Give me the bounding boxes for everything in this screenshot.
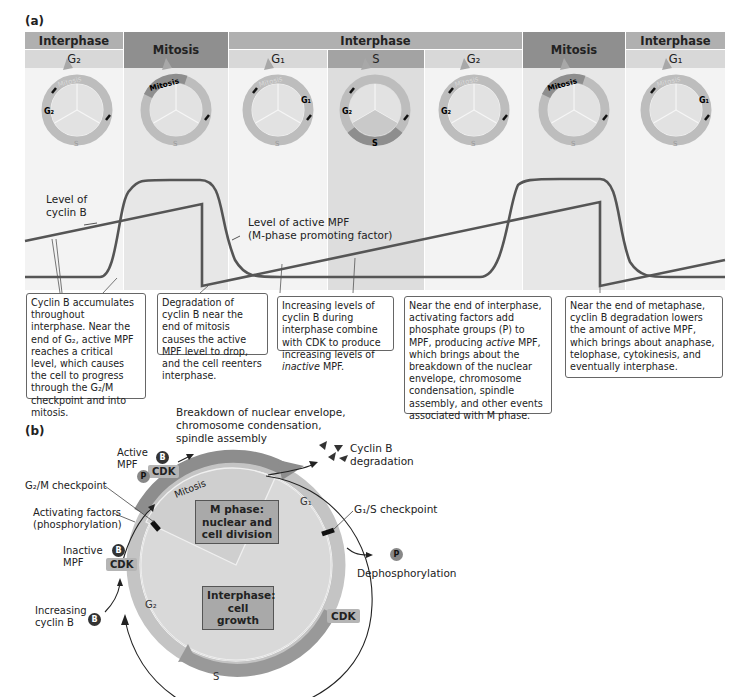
callout-italic: inactive [282, 361, 320, 372]
cdk-inactive: CDK [106, 558, 137, 571]
increasing-line1: Increasing [35, 605, 87, 617]
cell-cycle-wheels: G₂ Mitosis S Mitosis S G₁ Mitosis S G₂ S… [0, 0, 741, 300]
increasing-line2: cyclin B [35, 617, 87, 629]
breakdown-line1: Breakdown of nuclear envelope, [176, 406, 346, 419]
svg-text:S: S [173, 140, 178, 148]
wheel-3: G₁ Mitosis S [247, 58, 312, 148]
callout-near-end-interphase: Near the end of interphase, activating f… [404, 296, 552, 414]
svg-text:S: S [372, 139, 378, 148]
breakdown-label: Breakdown of nuclear envelope, chromosom… [176, 406, 346, 445]
interphase-line1: Interphase: [207, 589, 269, 602]
m-phase-line1: M phase: [200, 503, 274, 516]
svg-text:S: S [471, 140, 476, 148]
g1s-checkpoint-label: G₁/S checkpoint [354, 503, 437, 515]
phosphate-badge-active: P [137, 470, 150, 483]
g2m-checkpoint-label: G₂/M checkpoint [25, 480, 107, 492]
active-mpf-line1: Active [117, 447, 148, 459]
active-mpf-label-line1: Level of active MPF [248, 216, 392, 229]
svg-text:G₂: G₂ [342, 107, 353, 116]
inactive-mpf-label: Inactive MPF [63, 545, 103, 569]
svg-text:G₂: G₂ [441, 107, 452, 116]
cyclin-b-label-line1: Level of [46, 193, 87, 206]
breakdown-line2: chromosome condensation, [176, 419, 346, 432]
cyclin-deg-line1: Cyclin B [350, 442, 414, 455]
wheel-6: Mitosis S [543, 58, 607, 148]
callout-degradation: Degradation of cyclin B near the end of … [157, 293, 268, 355]
cdk-active: CDK [148, 465, 179, 478]
svg-text:S: S [571, 140, 576, 148]
wheel-7: G₁ Mitosis S [645, 58, 710, 148]
callout-increasing-levels: Increasing levels of cyclin B during int… [277, 296, 394, 351]
interphase-line2: cell growth [207, 602, 269, 627]
activating-factors-label: Activating factors (phosphorylation) [33, 507, 122, 531]
m-phase-line2: nuclear and [200, 516, 274, 529]
wheel-4: G₂ S [342, 58, 408, 148]
svg-text:S: S [213, 671, 219, 682]
svg-text:G₁: G₁ [699, 96, 710, 105]
active-mpf-label: Level of active MPF (M-phase promoting f… [248, 216, 392, 242]
m-phase-box: M phase: nuclear and cell division [195, 500, 279, 544]
breakdown-line3: spindle assembly [176, 432, 346, 445]
svg-text:G₁: G₁ [300, 496, 312, 507]
wheel-1: G₂ Mitosis S [44, 58, 110, 148]
svg-text:G₂: G₂ [145, 599, 157, 610]
cyclin-deg-line2: degradation [350, 455, 414, 468]
active-mpf-label-line2: (M-phase promoting factor) [248, 229, 392, 242]
cyclin-b-badge-active: B [156, 451, 169, 464]
callout-italic: active [486, 337, 515, 348]
callout-text: Increasing levels of cyclin B during int… [282, 300, 381, 360]
svg-text:G₂: G₂ [44, 107, 55, 116]
phosphate-badge-dephos: P [390, 548, 403, 561]
dephosphorylation-label: Dephosphorylation [357, 567, 457, 579]
increasing-cyclin-label: Increasing cyclin B [35, 605, 87, 629]
cyclin-b-label: Level of cyclin B [46, 193, 87, 219]
wheel-2: Mitosis S [145, 58, 209, 148]
m-phase-line3: cell division [200, 528, 274, 541]
svg-text:S: S [74, 140, 79, 148]
inactive-mpf-line2: MPF [63, 557, 103, 569]
cyclin-b-badge-increasing: B [88, 613, 101, 626]
callout-cyclin-accumulates: Cyclin B accumulates throughout interpha… [26, 293, 146, 399]
callout-near-end-metaphase: Near the end of metaphase, cyclin B degr… [565, 296, 723, 378]
svg-text:S: S [673, 140, 678, 148]
interphase-box: Interphase: cell growth [202, 586, 274, 630]
activating-line2: (phosphorylation) [33, 519, 122, 531]
wheel-5: G₂ Mitosis S [441, 58, 507, 148]
cyclin-b-badge-inactive: B [112, 544, 125, 557]
activating-line1: Activating factors [33, 507, 122, 519]
svg-text:G₁: G₁ [301, 96, 312, 105]
inactive-mpf-line1: Inactive [63, 545, 103, 557]
callout-text: MPF. [320, 361, 344, 372]
cyclin-degradation-label: Cyclin B degradation [350, 442, 414, 468]
active-mpf-b-label: Active MPF [117, 447, 148, 471]
cdk-free: CDK [327, 609, 360, 623]
cyclin-b-label-line2: cyclin B [46, 206, 87, 219]
svg-text:S: S [275, 140, 280, 148]
